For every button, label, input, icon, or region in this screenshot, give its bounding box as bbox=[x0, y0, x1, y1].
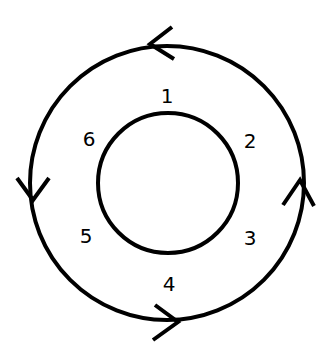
segment-label-1: 1 bbox=[161, 84, 174, 108]
segment-label-5: 5 bbox=[80, 224, 93, 248]
arrow-up-icon bbox=[283, 180, 314, 206]
arrow-down-icon bbox=[17, 178, 49, 200]
arrow-right-icon bbox=[153, 305, 178, 340]
segment-label-4: 4 bbox=[163, 272, 176, 296]
segment-label-6: 6 bbox=[83, 127, 96, 151]
arrow-left-icon bbox=[150, 27, 174, 59]
segment-label-2: 2 bbox=[244, 129, 257, 153]
inner-circle bbox=[98, 113, 238, 253]
cycle-diagram: 1 2 3 4 5 6 bbox=[0, 0, 333, 357]
segment-label-3: 3 bbox=[244, 226, 257, 250]
